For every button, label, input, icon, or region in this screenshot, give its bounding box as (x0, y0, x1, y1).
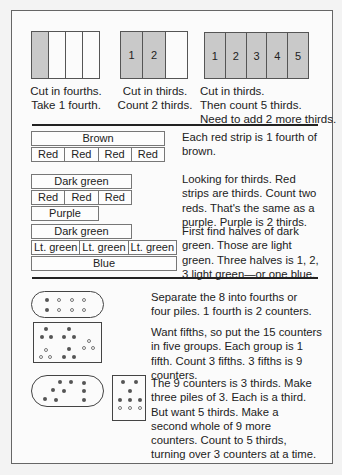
filled-counter-icon (128, 398, 132, 402)
counters-box-fifths (33, 322, 102, 363)
fourths-caption: Cut in fourths. Take 1 fourth. (26, 84, 106, 112)
fourth-cell-3 (66, 32, 83, 78)
fifths-counters-explanation: Want fifths, so put the 15 counters in f… (151, 325, 323, 382)
red-fourths-strip: Red Red Red Red (31, 147, 165, 162)
section-divider-1 (32, 124, 318, 126)
filled-counter-icon (121, 380, 125, 384)
blue-strip: Blue (31, 256, 177, 271)
filled-counter-icon (62, 389, 66, 393)
empty-counter-icon (39, 355, 43, 359)
thirds-caption: Cut in thirds. Count 2 thirds. (115, 84, 195, 112)
filled-counter-icon (49, 335, 53, 339)
section-divider-2 (32, 277, 318, 279)
empty-counter-icon (57, 308, 61, 312)
purple-strip: Purple (31, 206, 99, 221)
empty-counter-icon (44, 348, 48, 352)
dark-green-strip-2: Dark green (31, 224, 132, 239)
five-thirds-caption: Cut in thirds. Then count 5 thirds. Need… (200, 84, 336, 126)
empty-counter-icon (128, 406, 132, 410)
filled-counter-icon (134, 380, 138, 384)
counters-oval-thirds (31, 375, 104, 407)
counters-oval-fourths (31, 291, 104, 318)
blue-label: Blue (32, 257, 176, 270)
filled-counter-icon (51, 388, 55, 392)
empty-counter-icon (57, 298, 61, 302)
dark-green-label: Dark green (32, 225, 131, 238)
five-thirds-cell-1: 1 (205, 33, 226, 78)
thirds-rectangle: 1 2 (120, 31, 188, 79)
empty-counter-icon (70, 298, 74, 302)
filled-counter-icon (43, 397, 47, 401)
red-segment: Red (99, 148, 132, 161)
filled-counter-icon (72, 355, 76, 359)
brown-label: Brown (32, 132, 164, 145)
red-segment: Red (65, 148, 98, 161)
filled-counter-icon (82, 381, 86, 385)
empty-counter-icon (82, 308, 86, 312)
five-thirds-cell-4: 4 (267, 33, 288, 78)
counters-box-thirds (112, 375, 146, 421)
purple-label: Purple (32, 207, 98, 220)
third-cell-3 (166, 32, 187, 78)
light-green-segment: Lt. green (32, 241, 80, 254)
red-segment: Red (99, 191, 131, 204)
red-segment: Red (132, 148, 164, 161)
fourth-cell-1 (32, 32, 49, 78)
fourth-cell-2 (49, 32, 66, 78)
empty-counter-icon (91, 346, 95, 350)
filled-counter-icon (45, 308, 49, 312)
filled-counter-icon (54, 398, 58, 402)
filled-counter-icon (44, 327, 48, 331)
red-segment: Red (32, 148, 65, 161)
empty-counter-icon (82, 298, 86, 302)
filled-counter-icon (118, 398, 122, 402)
red-segment: Red (32, 191, 65, 204)
filled-counter-icon (72, 335, 76, 339)
third-cell-1: 1 (121, 32, 143, 78)
blue-explanation: First find halves of dark green. Those a… (182, 224, 324, 281)
filled-counter-icon (67, 327, 71, 331)
dark-green-strip: Dark green (31, 174, 132, 189)
brown-strip: Brown (31, 131, 165, 146)
five-thirds-cell-2: 2 (226, 33, 247, 78)
five-thirds-rectangle: 1 2 3 4 5 (204, 32, 309, 79)
empty-counter-icon (82, 346, 86, 350)
fourths-rectangle (31, 31, 100, 79)
filled-counter-icon (82, 389, 86, 393)
filled-counter-icon (62, 355, 66, 359)
empty-counter-icon (118, 406, 122, 410)
five-thirds-cell-3: 3 (247, 33, 268, 78)
filled-counter-icon (67, 347, 71, 351)
light-green-strip: Lt. green Lt. green Lt. green (31, 240, 177, 255)
light-green-segment: Lt. green (129, 241, 176, 254)
purple-explanation: Looking for thirds. Red strips are third… (182, 172, 320, 229)
red-thirds-strip: Red Red Red (31, 190, 132, 205)
fourths-counters-explanation: Separate the 8 into fourths or four pile… (151, 290, 319, 319)
filled-counter-icon (128, 389, 132, 393)
filled-counter-icon (82, 398, 86, 402)
brown-explanation: Each red strip is 1 fourth of brown. (182, 130, 322, 159)
red-segment: Red (65, 191, 98, 204)
empty-counter-icon (48, 355, 52, 359)
fourth-cell-4 (83, 32, 99, 78)
empty-counter-icon (138, 406, 142, 410)
light-green-segment: Lt. green (80, 241, 128, 254)
filled-counter-icon (69, 380, 73, 384)
third-cell-2: 2 (143, 32, 165, 78)
filled-counter-icon (40, 335, 44, 339)
thirds-counters-explanation: The 9 counters is 3 thirds. Make three p… (151, 376, 317, 462)
empty-counter-icon (87, 339, 91, 343)
five-thirds-cell-5: 5 (288, 33, 308, 78)
empty-counter-icon (70, 308, 74, 312)
filled-counter-icon (45, 298, 49, 302)
filled-counter-icon (62, 335, 66, 339)
filled-counter-icon (138, 398, 142, 402)
dark-green-label: Dark green (32, 175, 131, 188)
filled-counter-icon (58, 380, 62, 384)
